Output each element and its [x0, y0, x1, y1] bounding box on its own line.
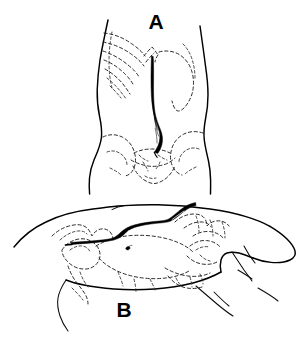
illustration-canvas: A: [0, 0, 302, 341]
medical-illustration-figure: A: [0, 0, 302, 341]
panel-a-label: A: [148, 10, 163, 33]
panel-b-label: B: [116, 298, 131, 321]
